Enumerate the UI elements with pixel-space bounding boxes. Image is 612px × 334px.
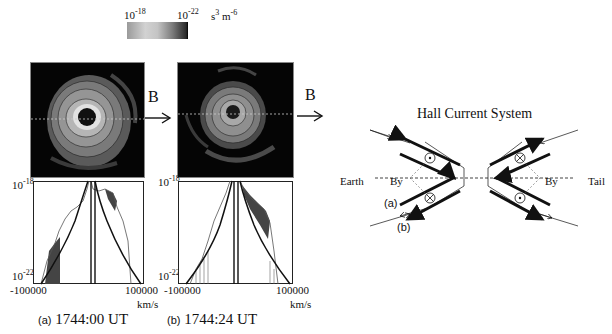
colorbar-max-base: 10 [177, 9, 188, 21]
caption-b-time: 1744:24 UT [184, 311, 257, 327]
plot-b-xright-label: 100000 [276, 284, 309, 296]
colorbar [127, 22, 188, 39]
plot-b-xleft-label: -100000 [164, 284, 201, 296]
ybottom-base-a: 10 [12, 270, 23, 282]
caption-a-tag: (a) [38, 314, 51, 326]
units-exp2: -6 [231, 8, 238, 17]
distribution-contours-b [178, 63, 293, 177]
field-label-b: B [305, 86, 316, 104]
colorbar-units: s3 m-6 [211, 8, 237, 22]
colorbar-min-exp: -18 [135, 7, 146, 16]
plot-a-ybottom-label: 10-22 [12, 268, 34, 282]
caption-a: (a) 1744:00 UT [38, 311, 128, 328]
caption-b: (b) 1744:24 UT [167, 311, 257, 328]
distribution-contours-a [31, 63, 144, 177]
hall-current-diagram [330, 128, 610, 248]
plot-a-xunit: km/s [137, 298, 158, 310]
colorbar-min-base: 10 [124, 9, 135, 21]
caption-a-time: 1744:00 UT [55, 311, 128, 327]
colorbar-max-label: 10-22 [177, 7, 199, 21]
diagram-title: Hall Current System [417, 106, 532, 122]
field-arrow-icon-a [145, 112, 173, 124]
colorbar-min-label: 10-18 [124, 7, 146, 21]
field-label-a: B [148, 88, 159, 106]
units-mid: m [219, 10, 230, 22]
caption-b-tag: (b) [167, 314, 180, 326]
colorbar-max-exp: -22 [188, 7, 199, 16]
spectrum-plot-b [178, 181, 294, 285]
field-arrow-icon-b [297, 110, 325, 122]
plot-a-xright-label: 100000 [125, 284, 158, 296]
distribution-image-a [30, 62, 145, 178]
spectrum-plot-a [33, 181, 145, 285]
ytop-base-b: 10 [158, 176, 169, 188]
plot-b-xunit: km/s [290, 298, 311, 310]
plot-a-ytop-label: 10-18 [12, 177, 34, 191]
plot-a-xleft-label: -100000 [10, 284, 47, 296]
ybottom-base-b: 10 [158, 270, 169, 282]
plot-b-ytop-label: 10-18 [158, 174, 180, 188]
ytop-base-a: 10 [12, 179, 23, 191]
plot-b-ybottom-label: 10-22 [158, 268, 180, 282]
distribution-image-b [177, 62, 294, 178]
